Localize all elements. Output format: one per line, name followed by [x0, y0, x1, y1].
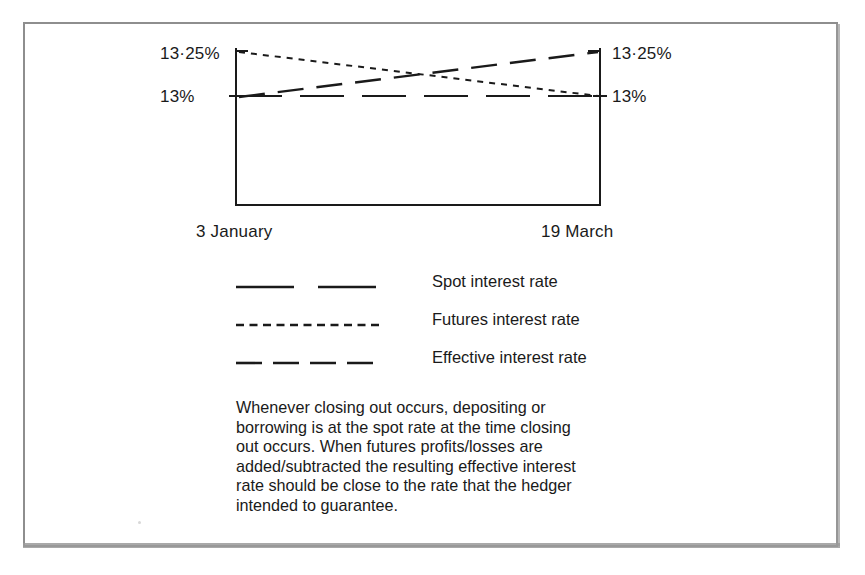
y-axis-label-right-upper: 13·25%	[612, 44, 672, 64]
legend-label-futures-interest-rate: Futures interest rate	[432, 310, 580, 329]
caption-line: Whenever closing out occurs, depositing …	[236, 398, 636, 418]
y-axis-label-right-lower: 13%	[612, 87, 647, 107]
caption-line: out occurs. When futures profits/losses …	[236, 437, 636, 457]
y-axis-label-left-upper: 13·25%	[160, 44, 220, 64]
y-axis-label-left-lower: 13%	[160, 87, 195, 107]
x-axis-label-start: 3 January	[196, 222, 272, 242]
legend-label-effective-interest-rate: Effective interest rate	[432, 348, 587, 367]
chart-legend: Spot interest rate Futures interest rate…	[236, 268, 656, 382]
caption-line: borrowing is at the spot rate at the tim…	[236, 418, 636, 438]
figure-border-right-shadow	[836, 24, 840, 546]
legend-swatch-fine-dotted	[236, 320, 381, 330]
figure-border-bottom-shadow	[23, 543, 840, 548]
scan-artifact-dot	[138, 521, 141, 524]
legend-label-spot-interest-rate: Spot interest rate	[432, 272, 558, 291]
figure-caption: Whenever closing out occurs, depositing …	[236, 398, 636, 516]
legend-item-futures-interest-rate: Futures interest rate	[236, 306, 656, 344]
legend-item-spot-interest-rate: Spot interest rate	[236, 268, 656, 306]
legend-swatch-medium-dash	[236, 358, 381, 368]
x-axis-label-end: 19 March	[541, 222, 613, 242]
caption-line: intended to guarantee.	[236, 496, 636, 516]
figure-container: 13·25% 13% 13·25% 13% 3 January 19 March…	[0, 0, 865, 575]
caption-line: added/subtracted the resulting effective…	[236, 457, 636, 477]
legend-swatch-long-dash	[236, 282, 381, 292]
caption-line: rate should be close to the rate that th…	[236, 476, 636, 496]
legend-item-effective-interest-rate: Effective interest rate	[236, 344, 656, 382]
